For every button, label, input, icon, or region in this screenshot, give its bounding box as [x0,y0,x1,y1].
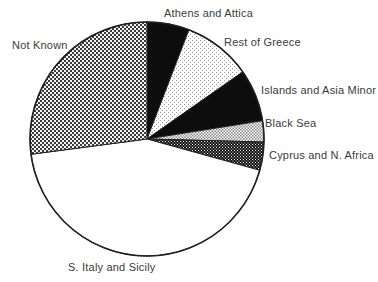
slice-label-black-sea: Black Sea [265,117,316,129]
slice-label-not-known: Not Known [12,39,68,51]
slice-label-s-italy-and-sicily: S. Italy and Sicily [68,261,156,273]
slice-label-cyprus-and-n-africa: Cyprus and N. Africa [269,149,374,161]
pie-slices [30,22,264,256]
pie-chart-figure: Athens and Attica Rest of Greece Islands… [0,0,378,282]
slice-label-rest-of-greece: Rest of Greece [224,36,301,48]
slice-label-athens-and-attica: Athens and Attica [164,7,253,19]
slice-label-islands-and-asia-minor: Islands and Asia Minor [261,84,376,96]
